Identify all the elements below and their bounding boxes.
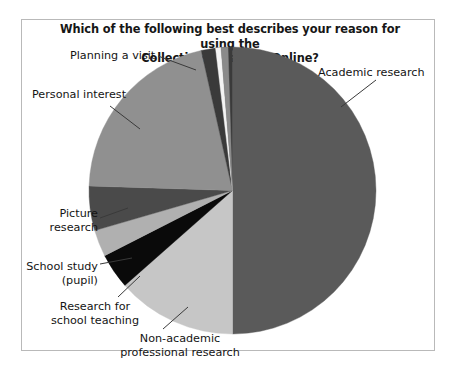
pie-chart — [88, 46, 377, 335]
slice-label-school-study-line-2: (pupil) — [62, 274, 98, 287]
slice-label-school-study-line-1: School study — [26, 260, 98, 273]
slice-label-picture-research-line-2: research — [50, 221, 98, 234]
slice-label-academic-research-text: Academic research — [318, 66, 425, 79]
pie-svg — [88, 46, 377, 335]
slice-label-research-teaching-line-2: school teaching — [51, 314, 139, 327]
pie-slice-academic-research — [233, 47, 376, 334]
slice-label-non-academic-professional-research: Non-academic professional research — [108, 332, 252, 359]
slice-label-academic-research: Academic research — [318, 66, 425, 80]
slice-label-research-teaching-line-1: Research for — [60, 300, 130, 313]
slice-label-picture-research-line-1: Picture — [60, 207, 98, 220]
slice-label-planning-a-visit: Planning a visit — [70, 49, 155, 63]
slice-label-research-for-school-teaching: Research for school teaching — [36, 300, 154, 327]
slice-label-personal-interest: Personal interest — [32, 88, 126, 102]
slice-label-non-academic-line-1: Non-academic — [140, 332, 220, 345]
pie-slices — [89, 47, 376, 334]
slice-label-picture-research: Picture research — [36, 207, 98, 234]
pie-chart-screenshot: Which of the following best describes yo… — [0, 0, 459, 373]
slice-label-non-academic-line-2: professional research — [120, 346, 240, 359]
slice-label-planning-a-visit-text: Planning a visit — [70, 49, 155, 62]
slice-label-school-study: School study (pupil) — [10, 260, 98, 287]
slice-label-personal-interest-text: Personal interest — [32, 88, 126, 101]
